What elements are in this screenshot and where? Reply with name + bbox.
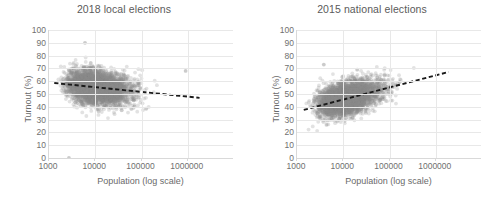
gridline-horizontal <box>297 107 481 108</box>
gridline-horizontal <box>297 94 481 95</box>
x-tick-label: 10000 <box>330 161 354 171</box>
y-axis-label-right: Turnout (%) <box>271 49 281 149</box>
plot-area-right <box>296 30 481 158</box>
panel-2015-national-elections: 2015 national elections 1009080706050403… <box>248 0 496 207</box>
x-tick-mark <box>296 158 297 161</box>
x-tick-mark <box>141 158 142 161</box>
x-tick-label: 100000 <box>126 161 154 171</box>
gridline-horizontal <box>297 68 481 69</box>
x-tick-label: 10000 <box>82 161 106 171</box>
gridline-horizontal <box>297 120 481 121</box>
x-tick-mark <box>187 158 188 161</box>
y-tick-label: 90 <box>250 38 294 48</box>
gridline-horizontal <box>49 56 233 57</box>
y-axis-label-left: Turnout (%) <box>23 49 33 149</box>
scatter-figure: 2018 local elections 1009080706050403020… <box>0 0 496 207</box>
x-tick-label: 100000 <box>374 161 402 171</box>
gridline-horizontal <box>49 30 233 31</box>
x-tick-mark <box>435 158 436 161</box>
x-tick-label: 1000 <box>39 161 58 171</box>
gridline-horizontal <box>49 145 233 146</box>
x-axis-label-left: Population (log scale) <box>48 176 233 186</box>
gridline-horizontal <box>297 81 481 82</box>
gridline-horizontal <box>49 43 233 44</box>
gridline-horizontal <box>49 68 233 69</box>
x-tick-label: 1000000 <box>418 161 451 171</box>
x-tick-label: 1000000 <box>170 161 203 171</box>
panel-2018-local-elections: 2018 local elections 1009080706050403020… <box>0 0 248 207</box>
gridline-horizontal <box>297 132 481 133</box>
gridline-horizontal <box>49 81 233 82</box>
x-tick-mark <box>94 158 95 161</box>
gridline-horizontal <box>49 107 233 108</box>
panel-title-left: 2018 local elections <box>0 3 248 15</box>
gridline-horizontal <box>49 132 233 133</box>
y-tick-label: 100 <box>250 25 294 35</box>
y-tick-label: 100 <box>2 25 46 35</box>
gridline-horizontal <box>297 56 481 57</box>
plot-area-left <box>48 30 233 158</box>
x-tick-mark <box>342 158 343 161</box>
panel-title-right: 2015 national elections <box>248 3 496 15</box>
gridline-horizontal <box>297 145 481 146</box>
y-tick-label: 90 <box>2 38 46 48</box>
x-tick-mark <box>389 158 390 161</box>
x-tick-mark <box>48 158 49 161</box>
x-tick-label: 1000 <box>287 161 306 171</box>
gridline-horizontal <box>297 43 481 44</box>
gridline-horizontal <box>49 120 233 121</box>
gridline-horizontal <box>49 94 233 95</box>
x-axis-label-right: Population (log scale) <box>296 176 481 186</box>
gridline-horizontal <box>297 30 481 31</box>
